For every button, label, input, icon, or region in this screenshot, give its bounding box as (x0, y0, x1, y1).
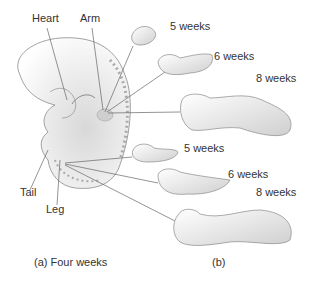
label-arm-5-weeks: 5 weeks (170, 20, 210, 32)
label-leg-6-weeks: 6 weeks (228, 168, 268, 180)
leg-8-weeks-drawing (174, 209, 292, 245)
caption-a: (a) Four weeks (34, 256, 107, 268)
arm-8-weeks-drawing (180, 94, 291, 136)
label-leg-8-weeks: 8 weeks (256, 186, 296, 198)
label-heart: Heart (32, 12, 59, 24)
arm-5-weeks-drawing (132, 26, 156, 45)
caption-b: (b) (212, 256, 225, 268)
label-tail: Tail (20, 186, 37, 198)
label-arm-8-weeks: 8 weeks (256, 72, 296, 84)
leg-5-weeks-drawing (132, 144, 178, 162)
label-leg-5-weeks: 5 weeks (184, 142, 224, 154)
label-arm-6-weeks: 6 weeks (214, 50, 254, 62)
label-arm: Arm (80, 12, 100, 24)
arm-6-weeks-drawing (158, 54, 213, 75)
label-leg: Leg (46, 203, 64, 215)
embryo-limb-illustration (0, 0, 313, 285)
leg-6-weeks-drawing (158, 169, 230, 194)
